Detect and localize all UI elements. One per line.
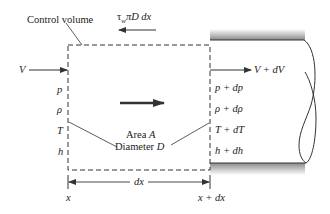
shear-force-label: τwπD dx xyxy=(117,12,151,25)
x-plus-dx-position-label: x + dx xyxy=(198,193,225,204)
dx-dimension-label: dx xyxy=(132,177,146,188)
area-leader-left xyxy=(69,122,117,147)
outlet-enthalpy-label: h + dh xyxy=(215,146,243,157)
control-volume-leader xyxy=(66,23,82,45)
pipe-end-cross-section xyxy=(299,40,316,163)
shear-rest: πD dx xyxy=(126,11,151,22)
area-word: Area xyxy=(126,129,146,140)
pipe-top-wall-shade xyxy=(210,29,305,40)
diameter-symbol: D xyxy=(157,141,165,152)
area-symbol: A xyxy=(149,129,155,140)
outlet-density-label: ρ + dρ xyxy=(215,104,243,115)
pipe-flow-control-volume-diagram: Control volume τwπD dx V V + dV p ρ T h … xyxy=(0,0,330,214)
area-leader-right xyxy=(171,123,209,145)
diagram-graphics xyxy=(0,0,330,214)
control-volume-label: Control volume xyxy=(27,15,93,26)
outlet-pressure-label: p + dp xyxy=(215,83,243,94)
diameter-word: Diameter xyxy=(115,141,154,152)
inlet-velocity-label: V xyxy=(19,65,25,76)
diameter-label: Diameter D xyxy=(115,142,164,153)
x-position-label: x xyxy=(66,193,71,204)
inlet-temperature-label: T xyxy=(57,126,63,137)
pipe-bottom-wall-shade xyxy=(210,163,305,175)
outlet-temperature-label: T + dT xyxy=(215,125,244,136)
inlet-enthalpy-label: h xyxy=(58,147,63,158)
inlet-pressure-label: p xyxy=(57,85,62,96)
inlet-density-label: ρ xyxy=(57,105,62,116)
outlet-velocity-label: V + dV xyxy=(254,65,284,76)
area-label: Area A xyxy=(126,130,155,141)
